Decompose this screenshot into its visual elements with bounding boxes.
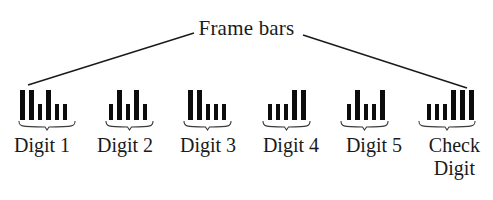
bar [276, 104, 280, 120]
bar [109, 104, 113, 120]
bar [222, 104, 226, 120]
group-labels-row: Digit 1Digit 2Digit 3Digit 4Digit 5Check… [14, 134, 480, 180]
bar [451, 90, 456, 120]
frame-bars-annotation-label: Frame bars [0, 18, 493, 39]
bars-digit-1 [18, 88, 69, 120]
bar [55, 104, 59, 120]
bar [364, 104, 368, 120]
bar [372, 104, 376, 120]
brace-digit-2 [105, 120, 154, 131]
group-label-digit-1: Digit 1 [14, 134, 70, 157]
bar [38, 104, 42, 120]
bar [46, 90, 51, 120]
bar [134, 90, 139, 120]
bar [435, 104, 439, 120]
bar [197, 90, 202, 120]
group-label-digit-5: Digit 5 [346, 134, 402, 157]
barcode-group-digit-4 [266, 88, 308, 120]
leader-line-left [28, 33, 194, 85]
bar [206, 104, 210, 120]
bar [380, 90, 385, 120]
group-braces-row [18, 120, 476, 132]
group-label-check-digit: Check Digit [429, 134, 480, 180]
bar [355, 90, 360, 120]
leader-line-right [303, 35, 467, 88]
bar [292, 90, 297, 120]
bar [143, 104, 147, 120]
barcode-structure-diagram: Frame bars Digit 1Digit 2Digit 3Digit 4D… [0, 0, 493, 200]
bar [443, 104, 447, 120]
bar [29, 90, 34, 120]
bars-check-digit [425, 88, 476, 120]
group-label-digit-4: Digit 4 [263, 134, 319, 157]
brace-check-digit [418, 120, 476, 131]
bar [63, 104, 67, 120]
barcode-groups-row [18, 84, 476, 120]
bars-digit-4 [266, 88, 308, 120]
brace-digit-4 [262, 120, 311, 131]
bar [126, 104, 130, 120]
bar [469, 90, 474, 120]
bar [117, 90, 122, 120]
bar [214, 104, 218, 120]
barcode-group-digit-2 [107, 88, 149, 120]
bar [301, 90, 306, 120]
group-label-digit-2: Digit 2 [97, 134, 153, 157]
brace-digit-5 [340, 120, 389, 131]
group-label-digit-3: Digit 3 [180, 134, 236, 157]
bars-digit-5 [345, 88, 387, 120]
barcode-group-digit-1 [18, 88, 69, 120]
bar [347, 104, 351, 120]
bars-digit-2 [107, 88, 149, 120]
barcode-group-check-digit [425, 88, 476, 120]
bar [427, 104, 431, 120]
bar [20, 90, 25, 120]
brace-digit-1 [18, 120, 76, 131]
bar [188, 90, 193, 120]
bars-digit-3 [186, 88, 228, 120]
bar [268, 104, 272, 120]
barcode-group-digit-5 [345, 88, 387, 120]
barcode-group-digit-3 [186, 88, 228, 120]
brace-digit-3 [183, 120, 232, 131]
bar [460, 90, 465, 120]
bar [284, 104, 288, 120]
